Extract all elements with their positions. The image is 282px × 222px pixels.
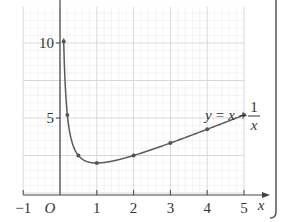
data-point	[168, 141, 172, 145]
svg-text:1: 1	[250, 99, 258, 115]
x-tick-label: 2	[130, 200, 138, 216]
frame-bracket	[270, 0, 276, 218]
function-curve	[64, 38, 244, 163]
x-tick-label: 1	[93, 200, 101, 216]
data-point	[132, 154, 136, 158]
svg-text:y=x+: y=x+	[203, 107, 247, 123]
grid-major	[23, 7, 244, 193]
y-tick-label: 10	[39, 35, 54, 51]
svg-text:x: x	[250, 117, 258, 133]
x-tick-label: −1	[15, 200, 31, 216]
x-tick-label: 3	[167, 200, 175, 216]
x-tick-label: 5	[240, 200, 248, 216]
x-tick-label: 4	[203, 200, 211, 216]
data-point	[205, 127, 209, 131]
data-point	[65, 113, 69, 117]
data-point	[95, 161, 99, 165]
origin-label: O	[45, 200, 56, 216]
x-axis-label: x	[257, 197, 265, 213]
axes	[23, 0, 270, 198]
data-point	[62, 40, 66, 44]
chart: −112345510 y=x+ 1 x O x	[0, 0, 282, 222]
data-point	[76, 154, 80, 158]
y-tick-label: 5	[47, 110, 55, 126]
